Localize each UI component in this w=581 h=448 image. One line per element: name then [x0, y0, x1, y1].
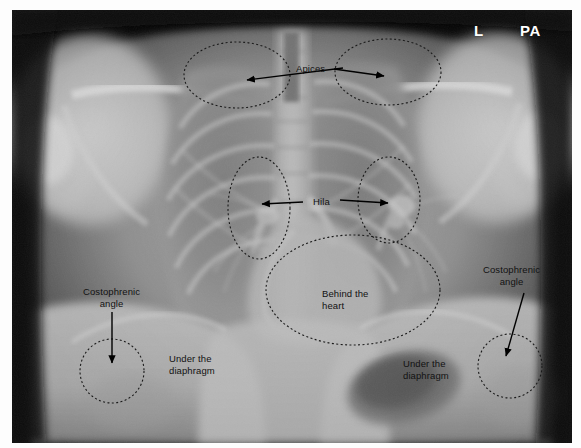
- annotation-label-behind-the-heart: Behind the heart: [322, 288, 368, 311]
- projection-marker: PA: [520, 22, 541, 39]
- annotation-label-apices: Apices: [296, 63, 325, 75]
- annotation-label-under-the-diaphragm-right: Under the diaphragm: [169, 353, 215, 376]
- annotation-label-costophrenic-angle-left: Costophrenic angle: [483, 264, 540, 287]
- xray-image: LPA ApicesHilaBehind the heartCostophren…: [12, 10, 572, 443]
- annotation-label-costophrenic-angle-right: Costophrenic angle: [83, 286, 140, 309]
- annotation-label-hila: Hila: [313, 196, 330, 208]
- xray-viewer: LPA ApicesHilaBehind the heartCostophren…: [0, 0, 581, 448]
- annotation-label-under-the-diaphragm-left: Under the diaphragm: [403, 358, 449, 381]
- side-marker: L: [474, 22, 484, 39]
- radiograph-canvas: [12, 10, 572, 443]
